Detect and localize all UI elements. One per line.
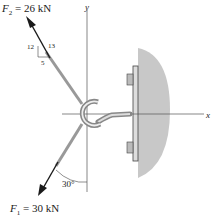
bolt-bottom	[127, 142, 133, 153]
cable-f2	[46, 52, 82, 104]
f1-label: F1 = 30 kN	[10, 203, 59, 215]
arrowhead-f1	[38, 184, 47, 196]
diagram-graphics	[0, 0, 217, 215]
slope-hypotenuse: 13	[48, 43, 55, 50]
y-axis-label: y	[85, 3, 89, 12]
force-arrow-f2	[30, 22, 50, 58]
f2-label: F2 = 26 kN	[2, 3, 51, 17]
wall-support	[138, 48, 170, 178]
arrowhead-f2	[26, 16, 36, 28]
force-arrow-f1	[42, 162, 58, 190]
mounting-plate	[133, 66, 138, 161]
bolt-top	[127, 74, 133, 85]
slope-rise: 12	[27, 44, 34, 51]
slope-run: 5	[41, 60, 45, 67]
force-diagram: F2 = 26 kN 12 13 5 30° F1 = 30 kN y x	[0, 0, 217, 215]
x-axis-label: x	[206, 111, 210, 120]
angle-label: 30°	[62, 180, 75, 189]
cable-f1	[56, 124, 82, 166]
